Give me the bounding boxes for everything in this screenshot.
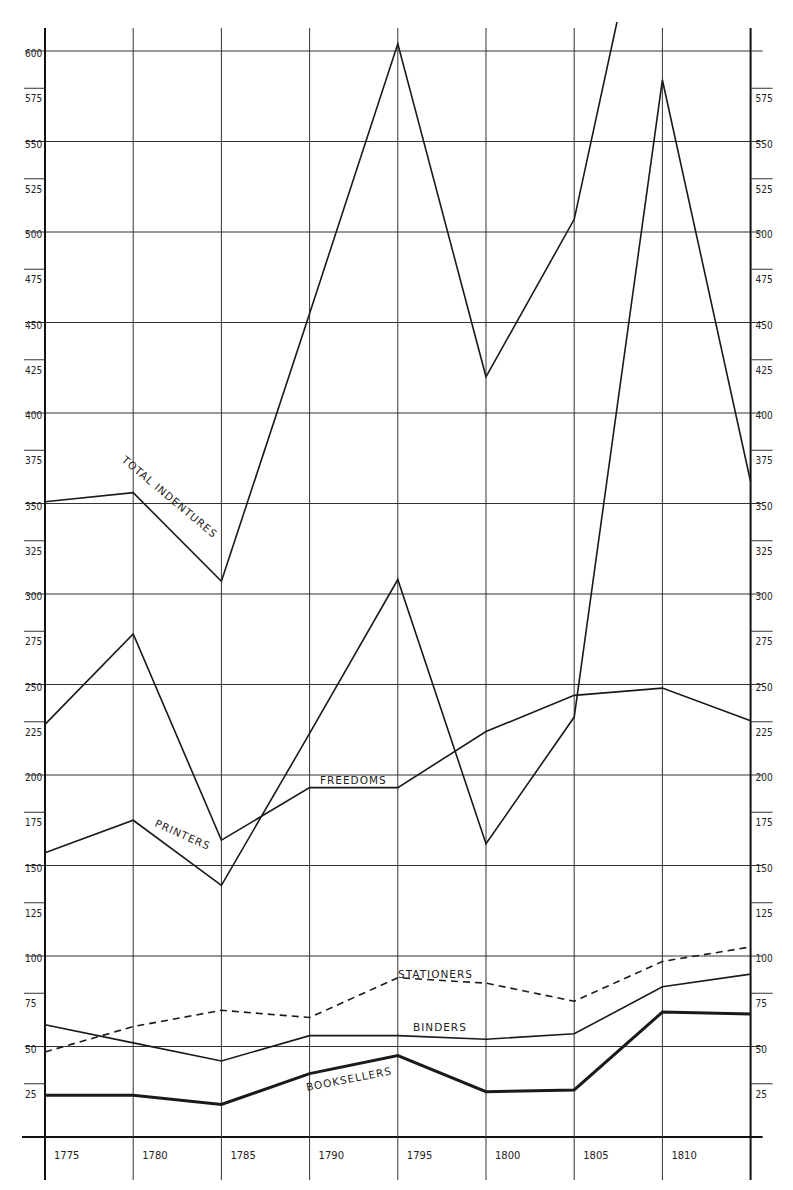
y-tick-label-left: 275 [25, 636, 42, 647]
y-tick-label-right: 550 [756, 139, 773, 150]
y-tick-label-right: 125 [756, 908, 773, 919]
y-tick-label-right: 150 [756, 863, 773, 874]
label-booksellers: BOOKSELLERS [305, 1065, 393, 1093]
label-freedoms: FREEDOMS [320, 774, 387, 786]
y-tick-label-right: 250 [756, 682, 773, 693]
x-tick-label: 1805 [583, 1150, 608, 1161]
y-tick-label-right: 100 [756, 953, 773, 964]
y-tick-label-left: 325 [25, 546, 42, 557]
y-tick-label-right: 425 [756, 365, 773, 376]
y-tick-label-left: 250 [25, 682, 42, 693]
y-tick-label-left: 450 [25, 320, 42, 331]
y-tick-label-left: 600 [25, 48, 42, 59]
y-tick-label-left: 525 [25, 184, 42, 195]
y-tick-label-left: 100 [25, 953, 42, 964]
y-tick-label-left: 125 [25, 908, 42, 919]
label-printers: PRINTERS [153, 817, 212, 852]
y-tick-label-left: 400 [25, 410, 42, 421]
x-tick-label: 1775 [54, 1150, 79, 1161]
y-tick-label-right: 25 [756, 1089, 767, 1100]
y-tick-label-right: 525 [756, 184, 773, 195]
x-tick-label: 1790 [319, 1150, 344, 1161]
y-tick-label-right: 175 [756, 817, 773, 828]
y-tick-label-left: 150 [25, 863, 42, 874]
line-chart: 2550751001251501752002252502753003253503… [0, 0, 793, 1190]
y-tick-label-right: 275 [756, 636, 773, 647]
y-tick-label-right: 500 [756, 229, 773, 240]
y-tick-label-right: 475 [756, 274, 773, 285]
y-tick-label-left: 575 [25, 93, 42, 104]
y-tick-label-left: 75 [25, 998, 36, 1009]
y-tick-label-right: 575 [756, 93, 773, 104]
y-tick-label-right: 225 [756, 727, 773, 738]
y-tick-label-left: 550 [25, 139, 42, 150]
x-tick-label: 1810 [671, 1150, 696, 1161]
y-tick-label-left: 350 [25, 501, 42, 512]
x-tick-label: 1795 [407, 1150, 432, 1161]
y-tick-label-left: 225 [25, 727, 42, 738]
y-tick-label-right: 50 [756, 1044, 768, 1055]
y-tick-label-left: 425 [25, 365, 42, 376]
label-binders: BINDERS [413, 1021, 467, 1033]
y-tick-label-left: 375 [25, 455, 42, 466]
y-tick-label-left: 475 [25, 274, 42, 285]
y-tick-label-left: 200 [25, 772, 42, 783]
y-tick-label-right: 375 [756, 455, 773, 466]
x-tick-label: 1800 [495, 1150, 520, 1161]
y-tick-label-left: 175 [25, 817, 42, 828]
grid [22, 28, 763, 1180]
y-tick-label-right: 75 [756, 998, 767, 1009]
y-tick-label-right: 400 [756, 410, 773, 421]
y-tick-label-right: 450 [756, 320, 773, 331]
x-tick-label: 1785 [230, 1150, 255, 1161]
y-tick-label-right: 200 [756, 772, 773, 783]
y-tick-label-right: 300 [756, 591, 773, 602]
label-stationers: STATIONERS [398, 968, 473, 980]
y-tick-label-left: 50 [25, 1044, 37, 1055]
y-tick-label-left: 500 [25, 229, 42, 240]
y-tick-label-right: 350 [756, 501, 773, 512]
y-tick-label-left: 300 [25, 591, 42, 602]
y-tick-label-right: 325 [756, 546, 773, 557]
y-tick-label-left: 25 [25, 1089, 36, 1100]
label-total-indentures: TOTAL INDENTURES [119, 453, 220, 541]
x-tick-label: 1780 [142, 1150, 167, 1161]
axis-ticks: 2550751001251501752002252502753003253503… [24, 48, 773, 1161]
series-total-indentures [45, 22, 617, 581]
